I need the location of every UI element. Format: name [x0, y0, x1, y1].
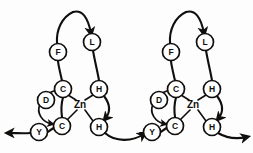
residue-node-L[interactable]: L	[197, 34, 214, 51]
residue-label: H	[209, 122, 215, 132]
backbone-right-h1-to-h2	[217, 96, 222, 119]
bond-right-c2-zn	[180, 110, 190, 120]
residue-label: C	[60, 84, 66, 94]
residue-node-D[interactable]: D	[151, 92, 168, 109]
backbone-left-ascend	[62, 98, 63, 118]
bond-left-c2-zn	[67, 110, 77, 120]
backbone-inter-unit-link	[105, 133, 144, 140]
backbone-right-c2-to-y	[161, 128, 167, 132]
metal-label-zn-left: Zn	[74, 99, 86, 110]
residue-node-C2[interactable]: C	[167, 118, 184, 135]
residue-label: D	[156, 95, 162, 105]
residue-label: L	[202, 37, 207, 47]
backbone-right-c1-to-f	[171, 61, 175, 81]
bond-right-h2-zn	[198, 110, 206, 121]
backbone-left-c1-to-f	[58, 61, 62, 81]
residue-label: H	[96, 122, 102, 132]
residue-node-Y[interactable]: Y	[31, 124, 48, 141]
backbone-left-c2-to-y	[48, 128, 54, 132]
bond-right-h1-zn	[198, 95, 206, 100]
residue-label: L	[89, 37, 94, 47]
backbone-left-h1-to-h2	[104, 96, 109, 119]
residue-label: F	[168, 47, 173, 57]
residue-node-H2[interactable]: H	[204, 119, 221, 136]
residue-node-H1[interactable]: H	[204, 81, 221, 98]
residue-node-F[interactable]: F	[163, 44, 180, 61]
residue-label: C	[172, 121, 178, 131]
diagram-canvas: Zn F L C D C	[0, 0, 253, 153]
backbone-right-f-to-apex	[170, 12, 186, 44]
residue-label: H	[96, 84, 102, 94]
backbone-left-l-to-h1	[93, 51, 99, 81]
residue-label: F	[55, 47, 60, 57]
residue-label: Y	[149, 127, 155, 137]
residue-node-C1[interactable]: C	[55, 81, 72, 98]
residue-label: C	[173, 84, 179, 94]
bond-left-h1-zn	[85, 95, 93, 100]
residue-node-D[interactable]: D	[38, 92, 55, 109]
motif-diagram: Zn F L C D C	[0, 0, 253, 153]
backbone-right-apex-to-l	[186, 12, 204, 34]
residue-label: C	[59, 121, 65, 131]
residue-node-F[interactable]: F	[50, 44, 67, 61]
backbone-right-terminus	[218, 133, 247, 138]
residue-node-C2[interactable]: C	[54, 118, 71, 135]
residue-label: D	[43, 95, 49, 105]
backbone-right-l-to-h1	[206, 51, 212, 81]
backbone-left-f-to-apex	[57, 12, 73, 44]
bond-left-h2-zn	[85, 110, 93, 121]
residue-node-H1[interactable]: H	[91, 81, 108, 98]
residue-node-C1[interactable]: C	[168, 81, 185, 98]
unit-right: Zn F L C D C Y	[140, 12, 247, 141]
metal-label-zn-right: Zn	[187, 99, 199, 110]
residue-node-Y[interactable]: Y	[144, 124, 161, 141]
residue-label: H	[209, 84, 215, 94]
backbone-left-apex-to-l	[73, 12, 91, 34]
unit-left: Zn F L C D C	[8, 12, 109, 141]
backbone-right-ascend	[175, 98, 176, 118]
residue-node-L[interactable]: L	[84, 34, 101, 51]
residue-label: Y	[36, 127, 42, 137]
